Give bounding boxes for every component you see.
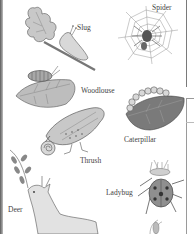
caterpillar-label: Caterpillar [124,135,157,144]
sprout-icon [150,220,162,234]
leaf-branch-icon [10,150,32,188]
woodlouse-leaf-icon [16,80,75,108]
slug-leaf-icon [26,7,57,41]
slug-label: Slug [77,23,91,32]
deer-icon [28,176,98,234]
thrush-label: Thrush [80,156,101,165]
ladybug-icon [138,178,184,214]
woodlouse-label: Woodlouse [81,86,115,95]
deer-label: Deer [8,205,23,214]
spider-label: Spider [152,3,172,12]
flower-icon [150,160,170,176]
woodlouse-icon [28,66,60,82]
ladybug-label: Ladybug [106,188,133,197]
animal-illustration: Slug Spider Woodlouse [0,0,194,234]
snail-shell-icon [41,141,55,155]
